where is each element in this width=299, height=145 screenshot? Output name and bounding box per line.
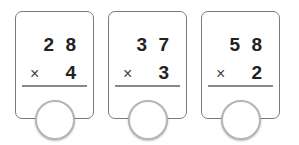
multiplier: 3 <box>158 62 172 84</box>
answer-line <box>208 85 273 87</box>
answer-circle[interactable] <box>128 100 168 140</box>
multiplier: 2 <box>251 62 265 84</box>
multiplier: 4 <box>65 62 79 84</box>
multiplicand: 2 8 <box>44 34 79 56</box>
answer-line <box>22 85 87 87</box>
answer-circle[interactable] <box>221 100 261 140</box>
answer-circle[interactable] <box>35 100 75 140</box>
multiplicand: 3 7 <box>137 34 172 56</box>
problem-card-2: 3 7 × 3 <box>108 11 187 119</box>
multiply-sign: × <box>30 65 39 83</box>
multiply-sign: × <box>216 65 225 83</box>
multiply-sign: × <box>123 65 132 83</box>
problem-card-3: 5 8 × 2 <box>201 11 280 119</box>
multiplicand: 5 8 <box>230 34 265 56</box>
answer-line <box>115 85 180 87</box>
problem-card-1: 2 8 × 4 <box>15 11 94 119</box>
